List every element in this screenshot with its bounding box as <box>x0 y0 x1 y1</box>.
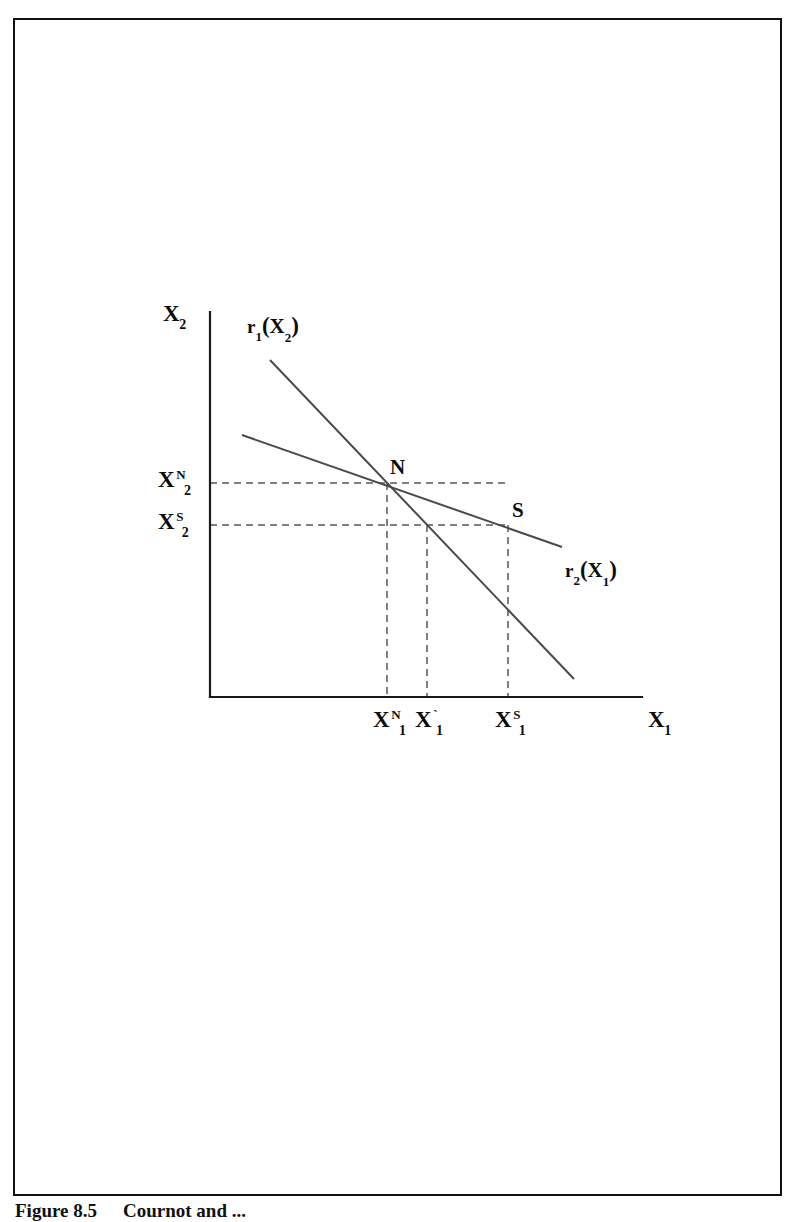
x-tick-label-x1n: XN1 <box>373 708 408 734</box>
x-tick-x1s-base: X <box>495 707 512 732</box>
curve-label-r1-rsub: 1 <box>255 329 262 344</box>
curve-label-r2-var: X <box>588 558 603 582</box>
curve-label-r2-open: ( <box>580 557 588 582</box>
curve-label-r2-varsub: 1 <box>603 574 610 589</box>
x-axis-title-sub: 1 <box>664 723 672 738</box>
y-axis-title-base: X <box>163 301 180 326</box>
x-tick-label-x1prime: X`1 <box>415 708 444 734</box>
x-tick-x1n-sub: 1 <box>399 723 407 738</box>
y-axis-title: X2 <box>163 302 188 328</box>
x-tick-x1prime-sup: ` <box>433 707 438 722</box>
x-tick-x1prime-sub: 1 <box>436 723 444 738</box>
x-axis-title: X1 <box>648 708 673 734</box>
curve-label-r1-open: ( <box>262 313 270 338</box>
y-tick-x2n-sup: N <box>176 467 186 482</box>
figure-frame: X2 X1 XN2 XS2 XN1 X`1 XS1 N S <box>13 18 782 1196</box>
y-axis-title-sub: 2 <box>179 317 187 332</box>
curve-label-r1-varsub: 2 <box>285 330 292 345</box>
guide-lines <box>210 483 508 697</box>
x-tick-x1s-sub: 1 <box>519 723 527 738</box>
x-tick-x1s-sup: S <box>513 707 521 722</box>
curve-label-r2: r2(X1) <box>565 558 617 583</box>
figure-caption: Figure 8.5Cournot and ... <box>15 1200 775 1222</box>
x-tick-x1prime-base: X <box>415 707 432 732</box>
curve-label-r1-close: ) <box>291 313 299 338</box>
point-label-n: N <box>390 455 405 480</box>
y-tick-x2s-sup: S <box>176 509 184 524</box>
y-tick-label-x2n: XN2 <box>158 468 193 494</box>
curve-r2 <box>242 435 562 547</box>
curve-label-r1-var: X <box>270 314 285 338</box>
point-label-s: S <box>512 498 524 523</box>
x-tick-x1n-sup: N <box>391 707 401 722</box>
y-tick-x2n-sub: 2 <box>184 483 192 498</box>
curve-label-r2-rsub: 2 <box>573 573 580 588</box>
x-tick-x1n-base: X <box>373 707 390 732</box>
y-tick-x2n-base: X <box>158 467 175 492</box>
plot-area: X2 X1 XN2 XS2 XN1 X`1 XS1 N S <box>15 20 784 1198</box>
curve-label-r1: r1(X2) <box>247 314 299 339</box>
y-tick-label-x2s: XS2 <box>158 510 190 536</box>
curve-r1 <box>270 360 574 679</box>
x-tick-label-x1s: XS1 <box>495 708 527 734</box>
y-tick-x2s-sub: 2 <box>182 525 190 540</box>
figure-caption-text: Cournot and ... <box>123 1200 246 1221</box>
axes <box>210 312 642 697</box>
curve-label-r2-close: ) <box>609 557 617 582</box>
plot-svg <box>15 20 784 1198</box>
figure-caption-number: Figure 8.5 <box>15 1200 97 1221</box>
x-axis-title-base: X <box>648 707 665 732</box>
y-tick-x2s-base: X <box>158 509 175 534</box>
